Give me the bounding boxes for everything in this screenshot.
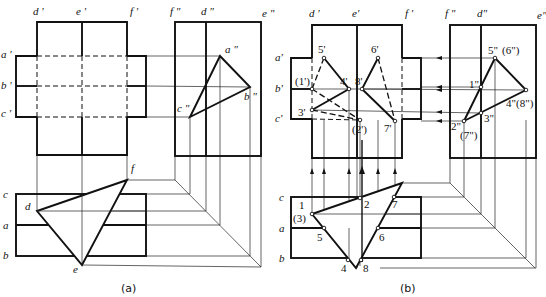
label-f-dprime: f ": [170, 5, 181, 17]
label-5-prime: 5': [318, 43, 326, 55]
caption-b: (b): [400, 282, 416, 295]
panel-b-arrows: [310, 56, 442, 174]
label-3: (3): [293, 212, 306, 225]
label-e-prime: e': [352, 7, 360, 19]
miter-line: [175, 180, 261, 267]
label-a-prime: a': [275, 51, 284, 63]
label-6-dprime: (6"): [502, 44, 520, 57]
label-3-prime: 3': [298, 106, 306, 118]
label-6: 6: [379, 231, 385, 243]
label-8: 8: [363, 262, 369, 274]
panel-b: d ' e' f ' f " d" e" a' b' c' 5' (1') 4'…: [275, 7, 546, 295]
label-7-prime: 7': [384, 122, 392, 134]
label-2-prime: (2'): [352, 123, 367, 136]
label-b: b: [3, 249, 9, 261]
panel-b-labels: d ' e' f ' f " d" e" a' b' c' 5' (1') 4'…: [275, 7, 546, 295]
label-2: 2: [364, 198, 370, 210]
panel-a-front-view: [16, 22, 146, 155]
label-e: e: [73, 263, 78, 275]
panel-a: d ' e ' f ' f " d " e " a ' b ' c ' a " …: [1, 5, 275, 295]
label-d: d: [25, 200, 31, 212]
label-1-prime: (1'): [295, 75, 310, 88]
label-e-prime: e ': [76, 5, 87, 17]
label-c-prime: c ': [1, 107, 12, 119]
label-c: c: [3, 188, 8, 200]
label-1-dprime: 1": [469, 78, 479, 90]
label-4-8-dprime: 4"(8"): [506, 97, 534, 110]
label-1: 1: [299, 199, 305, 211]
label-5: 5: [317, 231, 323, 243]
label-a-prime: a ': [1, 48, 12, 60]
label-e-dprime: e ": [262, 7, 275, 19]
label-b-prime: b': [275, 82, 284, 94]
label-e-dprime: e": [537, 9, 546, 21]
label-f-dprime: f ": [445, 7, 456, 19]
label-a-dprime: a ": [225, 43, 238, 55]
label-f-prime: f ': [405, 7, 414, 19]
label-c-prime: c': [275, 112, 283, 124]
label-f-prime: f ': [130, 5, 139, 17]
label-4-prime: 4': [340, 75, 348, 87]
label-c: c: [279, 191, 284, 203]
label-7-dprime: (7"): [460, 129, 478, 142]
label-b: b: [279, 252, 285, 264]
label-4: 4: [341, 262, 347, 274]
label-d-prime: d ': [33, 5, 44, 17]
label-d-prime: d ': [309, 7, 320, 19]
label-5-dprime: 5": [488, 44, 498, 56]
panel-a-labels: d ' e ' f ' f " d " e " a ' b ' c ' a " …: [1, 5, 275, 295]
label-b-prime: b ': [1, 79, 12, 91]
panel-b-top-view: [291, 183, 421, 268]
label-d-dprime: d": [477, 7, 488, 19]
label-a: a: [279, 222, 285, 234]
caption-a: (a): [121, 282, 136, 295]
label-6-prime: 6': [371, 43, 379, 55]
label-f: f: [131, 162, 136, 174]
label-d-dprime: d ": [201, 5, 214, 17]
label-b-dprime: b ": [244, 90, 257, 102]
label-8-prime: 8': [355, 75, 363, 87]
panel-a-side-view: [175, 22, 261, 156]
label-c-dprime: c ": [177, 102, 190, 114]
projection-drawing: d ' e ' f ' f " d " e " a ' b ' c ' a " …: [0, 0, 546, 297]
label-7: 7: [392, 198, 398, 210]
panel-a-top-view: [16, 180, 146, 265]
miter-line: [450, 183, 535, 268]
label-3-dprime: 3": [484, 112, 494, 124]
label-a: a: [3, 219, 9, 231]
panel-b-front-view: [291, 25, 421, 158]
